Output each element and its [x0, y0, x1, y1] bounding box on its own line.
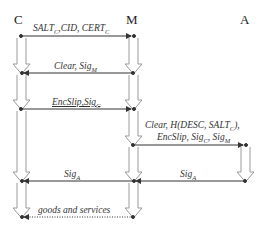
actor-c: C	[14, 12, 23, 28]
m-arrow-3	[125, 111, 142, 146]
a-arrow-1	[237, 147, 254, 182]
msg-label-3: EncSlip,SigC	[52, 97, 100, 109]
msg-label-7: goods and services	[38, 205, 110, 215]
msg-label-4-line2: EncSlip, SigC, SigM	[157, 132, 230, 144]
m-arrow-4	[125, 147, 142, 182]
c-arrow-4	[13, 183, 30, 218]
msg-label-4-line1: Clear, H(DESC, SALTC),	[145, 120, 240, 132]
msg-label-6: SigA	[64, 169, 80, 181]
m-arrow-5	[125, 183, 142, 218]
c-arrow-2	[13, 75, 30, 110]
m-arrow-1	[125, 38, 142, 74]
actor-a: A	[240, 12, 249, 28]
msg-label-5: SigA	[180, 169, 196, 181]
msg-label-2: Clear, SigM	[54, 61, 97, 73]
actor-m: M	[126, 12, 138, 28]
c-arrow-1	[13, 38, 30, 74]
m-arrow-2	[125, 75, 142, 110]
c-arrow-3	[13, 111, 30, 182]
msg-label-1: SALTC,CID, CERTC	[33, 23, 109, 35]
